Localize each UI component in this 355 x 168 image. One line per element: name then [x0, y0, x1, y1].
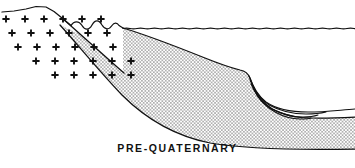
ground-surface-profile: [2, 7, 71, 26]
basement-plus-symbol-r5-c2: [70, 71, 77, 78]
basement-plus-symbol-r1-c1: [2, 15, 9, 22]
water-surface-line: [123, 28, 355, 29]
basement-plus-symbol-r1-c3: [40, 15, 47, 22]
basement-plus-symbol-r4-c2: [51, 57, 58, 64]
basement-plus-symbol-r2-c1: [8, 29, 15, 36]
basement-plus-symbol-r4-c1: [32, 57, 39, 64]
hummocky-crest-line: [71, 21, 123, 29]
basement-plus-symbol-r1-c5: [78, 15, 85, 22]
basement-plus-symbol-r2-c6: [103, 29, 110, 36]
stipple-fill-region: [0, 0, 355, 168]
quaternary-deposit-body: [0, 0, 355, 168]
basement-plus-symbol-r3-c1: [14, 43, 21, 50]
basement-plus-symbol-r3-c2: [33, 43, 40, 50]
basement-plus-symbol-r5-c1: [51, 71, 58, 78]
basement-plus-symbol-r2-c2: [27, 29, 34, 36]
basement-plus-symbol-r4-c3: [70, 57, 77, 64]
basement-plus-symbol-r1-c2: [21, 15, 28, 22]
geologic-cross-section-figure: PRE-QUATERNARY: [0, 0, 355, 168]
basement-plus-symbol-r3-c6: [109, 43, 116, 50]
basement-plus-symbol-r5-c3: [89, 71, 96, 78]
basement-plus-symbol-r3-c3: [52, 43, 59, 50]
basement-stipple-contact: [62, 18, 124, 73]
cross-section-drawing: [0, 0, 355, 168]
basement-plus-symbol-r2-c3: [46, 29, 53, 36]
basement-plus-symbol-r2-c5: [84, 29, 91, 36]
